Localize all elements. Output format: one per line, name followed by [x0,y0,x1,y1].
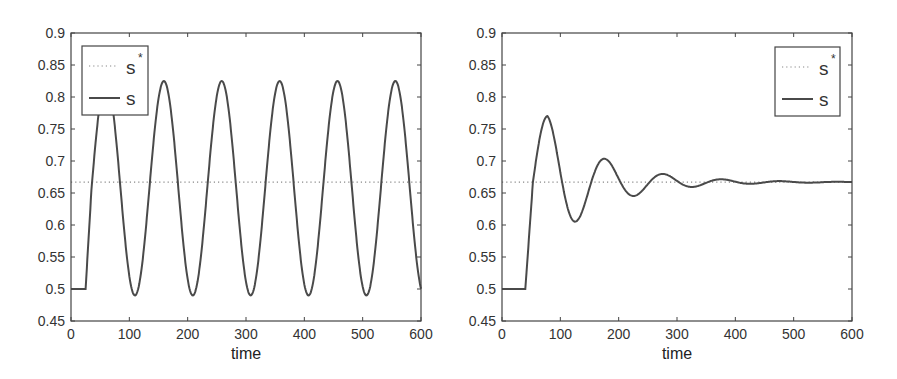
legend: s * s [775,47,840,116]
legend-superscript-star: * [831,52,836,66]
y-tick-labels: 0.450.50.550.60.650.70.750.80.850.9 [469,25,496,329]
x-tick-label: 200 [176,326,200,342]
y-tick-label: 0.6 [477,217,497,233]
y-tick-label: 0.55 [38,249,65,265]
x-tick-label: 300 [234,326,258,342]
y-tick-label: 0.85 [38,57,65,73]
x-tick-label: 400 [293,326,317,342]
legend-label-s-star: s [126,57,136,78]
x-axis-label: time [662,345,692,362]
y-tick-label: 0.55 [469,249,496,265]
x-tick-labels: 0100200300400500600 [67,326,433,342]
y-tick-label: 0.8 [477,89,497,105]
y-tick-label: 0.7 [477,153,497,169]
y-tick-label: 0.7 [46,153,66,169]
x-tick-label: 500 [351,326,375,342]
chart-left: 0.450.50.550.60.650.70.750.80.850.9 0100… [38,25,433,362]
y-tick-label: 0.85 [469,57,496,73]
y-tick-label: 0.5 [46,281,66,297]
y-tick-label: 0.75 [469,121,496,137]
x-tick-label: 100 [118,326,142,342]
x-tick-label: 400 [724,326,748,342]
curve-s [502,116,852,289]
y-tick-labels: 0.450.50.550.60.650.70.750.80.850.9 [38,25,65,329]
x-tick-label: 600 [840,326,864,342]
legend-superscript-star: * [138,51,143,65]
x-tick-label: 600 [409,326,433,342]
y-tick-label: 0.8 [46,89,66,105]
figure: 0.450.50.550.60.650.70.750.80.850.9 0100… [0,0,897,379]
y-tick-label: 0.9 [46,25,66,41]
x-tick-label: 300 [665,326,689,342]
y-tick-label: 0.5 [477,281,497,297]
x-tick-labels: 0100200300400500600 [498,326,864,342]
y-tick-label: 0.65 [469,185,496,201]
x-tick-label: 500 [782,326,806,342]
y-tick-label: 0.45 [38,313,65,329]
y-tick-label: 0.75 [38,121,65,137]
legend-label-s-star: s [819,58,829,79]
legend-label-s: s [819,89,829,110]
x-tick-label: 200 [607,326,631,342]
x-tick-label: 0 [498,326,506,342]
chart-right: 0.450.50.550.60.650.70.750.80.850.9 0100… [469,25,864,362]
x-tick-label: 0 [67,326,75,342]
legend-label-s: s [126,88,136,109]
y-tick-label: 0.65 [38,185,65,201]
x-axis-label: time [231,345,261,362]
y-tick-label: 0.6 [46,217,66,233]
y-tick-label: 0.9 [477,25,497,41]
legend: s * s [82,46,148,115]
y-tick-label: 0.45 [469,313,496,329]
x-tick-label: 100 [549,326,573,342]
